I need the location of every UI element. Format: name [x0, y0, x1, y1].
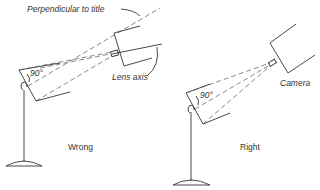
right-camera-lens — [268, 59, 276, 66]
camera-annotation: Camera — [280, 78, 311, 88]
wrong-angle-label: 90° — [30, 68, 43, 78]
right-caption: Right — [240, 142, 260, 152]
lens-axis-line — [40, 54, 110, 68]
right-board-clamp — [188, 105, 194, 113]
wrong-board-clamp — [21, 82, 27, 90]
right-field-line-bottom — [203, 66, 270, 124]
lens-axis-annotation: Lens axis — [112, 72, 149, 82]
perpendicular-annotation: Perpendicular to title — [27, 4, 105, 14]
wrong-title-board — [19, 63, 70, 101]
right-camera-body — [270, 24, 315, 73]
lens-axis-leader — [147, 47, 158, 76]
perpendicular-leader — [121, 9, 140, 16]
wrong-panel: 90° Perpendicular to title Lens axis Wro… — [6, 4, 162, 166]
right-field-line-middle — [195, 65, 270, 109]
wrong-field-line-bottom — [36, 56, 112, 101]
right-angle-label: 90° — [200, 90, 213, 100]
right-stand-base — [173, 180, 210, 185]
right-panel: 90° Camera Right — [173, 24, 315, 185]
right-angle-arc — [196, 96, 199, 105]
diagram-canvas: 90° Perpendicular to title Lens axis Wro… — [0, 0, 320, 190]
wrong-caption: Wrong — [68, 142, 93, 152]
